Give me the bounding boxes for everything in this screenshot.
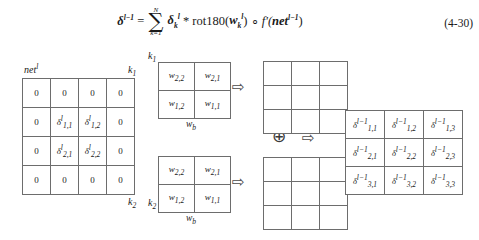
matrix-cell: δl2,1 xyxy=(51,137,79,166)
matrix-cell: w2,1 xyxy=(195,157,231,185)
matrix-cell: δl−11,2 xyxy=(385,111,424,139)
arrow-right-icon: ⇨ xyxy=(232,175,245,190)
equation-rot180-open: rot180( xyxy=(192,15,229,28)
table-row: 0 0 0 0 xyxy=(23,79,135,108)
net-matrix-k1-tag: k1 xyxy=(128,64,136,78)
matrix-cell: 0 xyxy=(51,79,79,108)
table-row: δl−13,1 δl−13,2 δl−13,3 xyxy=(346,167,463,195)
matrix-cell: 0 xyxy=(79,166,107,195)
equation-hadamard-operator: ∘ xyxy=(251,15,259,28)
matrix-cell xyxy=(264,206,292,230)
table-row: 0 δl2,1 δl2,2 0 xyxy=(23,137,135,166)
matrix-cell: δl−12,3 xyxy=(424,139,463,167)
equation-expression: δl−1 = N ∑ k=1 δkl * rot180(wkl) ∘ f′(ne… xyxy=(0,6,420,36)
matrix-cell: δl1,2 xyxy=(79,108,107,137)
matrix-cell: δl2,2 xyxy=(79,137,107,166)
equation-equals: = xyxy=(137,15,144,28)
kernel-2-tag: k2 xyxy=(148,197,156,211)
matrix-cell: 0 xyxy=(23,108,51,137)
matrix-cell xyxy=(292,86,320,110)
matrix-cell xyxy=(292,110,320,134)
matrix-cell: w1,1 xyxy=(195,185,231,213)
matrix-cell: w2,1 xyxy=(195,63,231,91)
matrix-cell: w2,2 xyxy=(159,157,195,185)
table-row xyxy=(264,182,348,206)
equation-lhs: δl−1 xyxy=(117,14,134,28)
table-row xyxy=(264,158,348,182)
matrix-cell: 0 xyxy=(107,108,135,137)
matrix-cell xyxy=(264,182,292,206)
matrix-cell xyxy=(264,86,292,110)
table-row: w1,2 w1,1 xyxy=(159,91,231,119)
matrix-cell: w1,1 xyxy=(195,91,231,119)
equation-convolution-operator: * xyxy=(183,15,189,28)
summation-sigma-icon: ∑ xyxy=(148,13,163,30)
matrix-cell xyxy=(320,86,348,110)
matrix-cell: 0 xyxy=(23,166,51,195)
table-row xyxy=(264,206,348,230)
matrix-cell: δl−13,3 xyxy=(424,167,463,195)
table-row: w2,2 w2,1 xyxy=(159,157,231,185)
matrix-cell xyxy=(320,182,348,206)
matrix-cell xyxy=(264,62,292,86)
delta-result-matrix: δl−11,1 δl−11,2 δl−11,3 δl−12,1 δl−12,2 … xyxy=(345,110,463,195)
table-row xyxy=(264,110,348,134)
table-row: w1,2 w1,1 xyxy=(159,185,231,213)
equation-row: δl−1 = N ∑ k=1 δkl * rot180(wkl) ∘ f′(ne… xyxy=(0,6,479,40)
matrix-cell: δl−12,1 xyxy=(346,139,385,167)
matrix-cell: 0 xyxy=(23,79,51,108)
intermediate-grid-1 xyxy=(263,61,348,134)
table-row: δl−12,1 δl−12,2 δl−12,3 xyxy=(346,139,463,167)
equation-number: (4-30) xyxy=(444,17,473,29)
summation-operator: N ∑ k=1 xyxy=(148,7,163,37)
matrix-cell: w1,2 xyxy=(159,91,195,119)
matrix-cell xyxy=(264,110,292,134)
summation-lower-limit: k=1 xyxy=(148,30,163,37)
matrix-cell: δl−11,3 xyxy=(424,111,463,139)
equation-net-term: netl−1 xyxy=(272,14,298,28)
intermediate-grid-2 xyxy=(263,157,348,230)
matrix-cell: δl1,1 xyxy=(51,108,79,137)
matrix-cell xyxy=(320,206,348,230)
matrix-cell: δl−13,2 xyxy=(385,167,424,195)
matrix-cell: 0 xyxy=(79,79,107,108)
net-matrix: 0 0 0 0 0 δl1,1 δl1,2 0 0 δl2,1 δl2,2 0 … xyxy=(22,78,135,195)
matrix-cell xyxy=(292,206,320,230)
table-row: 0 δl1,1 δl1,2 0 xyxy=(23,108,135,137)
matrix-cell xyxy=(320,158,348,182)
kernel-1-caption: wb xyxy=(186,119,196,132)
arrow-right-icon: ⇨ xyxy=(232,80,245,95)
table-row xyxy=(264,62,348,86)
matrix-cell: 0 xyxy=(107,79,135,108)
equation-rot180-close: ) xyxy=(243,15,247,28)
kernel-matrix-2: w2,2 w2,1 w1,2 w1,1 xyxy=(158,156,231,213)
net-matrix-label: netl xyxy=(24,62,38,75)
equation-derivative-open: f′( xyxy=(262,15,272,28)
table-row: w2,2 w2,1 xyxy=(159,63,231,91)
matrix-cell: δl−11,1 xyxy=(346,111,385,139)
table-row: 0 0 0 0 xyxy=(23,166,135,195)
equation-derivative-close: ) xyxy=(298,15,302,28)
table-row: δl−11,1 δl−11,2 δl−11,3 xyxy=(346,111,463,139)
equation-weight-term: wkl xyxy=(229,13,243,29)
kernel-2-caption: wb xyxy=(186,213,196,226)
matrix-cell: δl−13,1 xyxy=(346,167,385,195)
matrix-cell xyxy=(292,182,320,206)
kernel-matrix-1: w2,2 w2,1 w1,2 w1,1 xyxy=(158,62,231,119)
matrix-cell: 0 xyxy=(107,137,135,166)
matrix-cell xyxy=(292,158,320,182)
matrix-cell xyxy=(292,62,320,86)
matrix-cell: w1,2 xyxy=(159,185,195,213)
matrix-cell: δl−12,2 xyxy=(385,139,424,167)
matrix-cell: 0 xyxy=(51,166,79,195)
matrix-cell xyxy=(264,158,292,182)
net-matrix-k2-tag: k2 xyxy=(128,196,136,210)
equation-delta-term: δkl xyxy=(168,13,180,29)
kernel-1-tag: k1 xyxy=(148,50,156,64)
matrix-cell xyxy=(320,110,348,134)
matrix-cell xyxy=(320,62,348,86)
matrix-cell: 0 xyxy=(107,166,135,195)
matrix-cell: w2,2 xyxy=(159,63,195,91)
table-row xyxy=(264,86,348,110)
matrix-cell: 0 xyxy=(23,137,51,166)
